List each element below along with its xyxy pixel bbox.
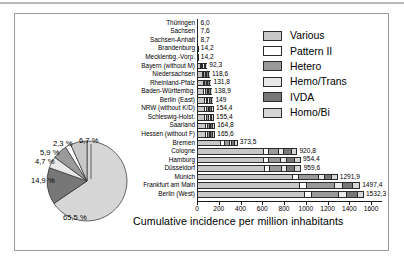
legend-item: IVDA — [263, 90, 383, 105]
bar-value-label: 14,2 — [201, 45, 214, 52]
bar — [197, 148, 297, 155]
bar-segment — [299, 175, 319, 180]
bar-segment — [198, 107, 205, 112]
x-axis-tick-label: 400 — [229, 205, 253, 212]
x-axis-line — [197, 201, 382, 202]
bar-value-label: 959,6 — [304, 165, 321, 172]
x-axis-tick-label: 0 — [185, 205, 209, 212]
bar-category-label: Sachsen — [15, 27, 195, 35]
pie-slice-label: 14,9 % — [31, 177, 55, 185]
top-rule — [0, 2, 404, 4]
bar — [197, 20, 198, 27]
bar-category-label: Schleswig-Holst. — [15, 113, 195, 121]
x-axis-tick-label: 600 — [250, 205, 274, 212]
bar-segment — [269, 149, 280, 154]
legend-swatch-icon — [263, 108, 282, 118]
bar-segment — [287, 166, 296, 171]
bar-segment — [335, 183, 343, 188]
bar — [197, 157, 301, 164]
bar-value-label: 1532,3 — [366, 191, 386, 198]
bar-segment — [353, 183, 358, 188]
bar — [197, 174, 338, 181]
bar — [197, 80, 211, 87]
bar-segment — [269, 158, 281, 163]
x-axis-tick-label: 200 — [207, 205, 231, 212]
bar — [197, 63, 207, 70]
bar-value-label: 154,4 — [216, 105, 233, 112]
bar-value-label: 954,4 — [303, 156, 320, 163]
legend-item: Hetero — [263, 59, 383, 74]
legend-label: Hetero — [290, 61, 321, 72]
bar-segment — [212, 107, 213, 112]
bar-value-label: 920,8 — [299, 148, 316, 155]
bar-segment — [198, 115, 205, 120]
bar-category-label: Sachsen-Anhalt — [15, 36, 195, 44]
bar-segment — [213, 124, 214, 129]
bar — [197, 106, 214, 113]
figure-frame: Thüringen6,0Sachsen7,6Sachsen-Anhalt8,7B… — [14, 13, 389, 251]
bar-category-label: Brandenburg — [15, 44, 195, 52]
x-axis-tick-label: 800 — [272, 205, 296, 212]
x-axis-tick-label: 1200 — [316, 205, 340, 212]
bar-segment — [295, 166, 300, 171]
legend-swatch-icon — [263, 31, 282, 41]
bar-category-label: Rheinland-Pfalz — [15, 79, 195, 87]
bar-segment — [198, 98, 205, 103]
bar-segment — [198, 166, 265, 171]
bar-value-label: 1497,4 — [362, 182, 382, 189]
bar-segment — [325, 175, 332, 180]
legend-item: Pattern II — [263, 43, 383, 58]
bar-value-label: 14,2 — [201, 54, 214, 61]
bar — [197, 131, 215, 138]
bar-value-label: 92,3 — [209, 62, 222, 69]
legend-swatch-icon — [263, 61, 282, 71]
bar-segment — [211, 89, 212, 94]
bar-category-label: Niedersachsen — [15, 70, 195, 78]
bar-segment — [287, 158, 296, 163]
bar-segment — [292, 149, 296, 154]
legend-item: Hemo/Trans — [263, 74, 383, 89]
bar — [197, 123, 215, 130]
bar-value-label: 8,7 — [201, 37, 210, 44]
bar — [197, 29, 198, 36]
bar — [197, 191, 364, 198]
bar-segment — [339, 192, 346, 197]
bar-value-label: 118,6 — [212, 71, 228, 78]
pie-slice-label: 2,3 % — [53, 140, 72, 148]
bar-value-label: 149 — [215, 97, 226, 104]
bar — [197, 114, 214, 121]
bar-value-label: 7,6 — [201, 28, 210, 35]
bar-category-label: Berlin (East) — [15, 96, 195, 104]
legend-label: Pattern II — [290, 46, 332, 57]
bar — [197, 88, 212, 95]
bar-value-label: 165,6 — [217, 131, 234, 138]
legend-item: Various — [263, 28, 383, 43]
bar-value-label: 138,9 — [214, 88, 231, 95]
bar — [197, 54, 199, 61]
x-axis-tick-label: 1600 — [359, 205, 383, 212]
legend-swatch-icon — [263, 92, 282, 102]
legend-label: Various — [290, 30, 324, 41]
bar-segment — [198, 183, 300, 188]
legend-label: IVDA — [290, 92, 314, 103]
bar-segment — [213, 132, 214, 137]
bar — [197, 165, 301, 172]
pie-slice-label: 6,7 % — [79, 137, 98, 145]
bar-segment — [198, 192, 305, 197]
bar-segment — [198, 149, 264, 154]
bar — [197, 140, 238, 147]
bar-category-label: Bayern (without M) — [15, 62, 195, 70]
legend-label: Homo/Bi — [290, 107, 330, 118]
chart-legend: VariousPattern IIHeteroHemo/TransIVDAHom… — [263, 28, 383, 120]
bar — [197, 97, 213, 104]
bar-segment — [212, 98, 213, 103]
bar-segment — [300, 183, 307, 188]
pie-slice-label: 5,9 % — [40, 149, 59, 157]
bar-segment — [347, 192, 358, 197]
bar-segment — [284, 149, 292, 154]
bar-segment — [198, 124, 206, 129]
bar-segment — [198, 141, 221, 146]
legend-swatch-icon — [263, 46, 282, 56]
legend-swatch-icon — [263, 77, 282, 87]
bar — [197, 182, 360, 189]
